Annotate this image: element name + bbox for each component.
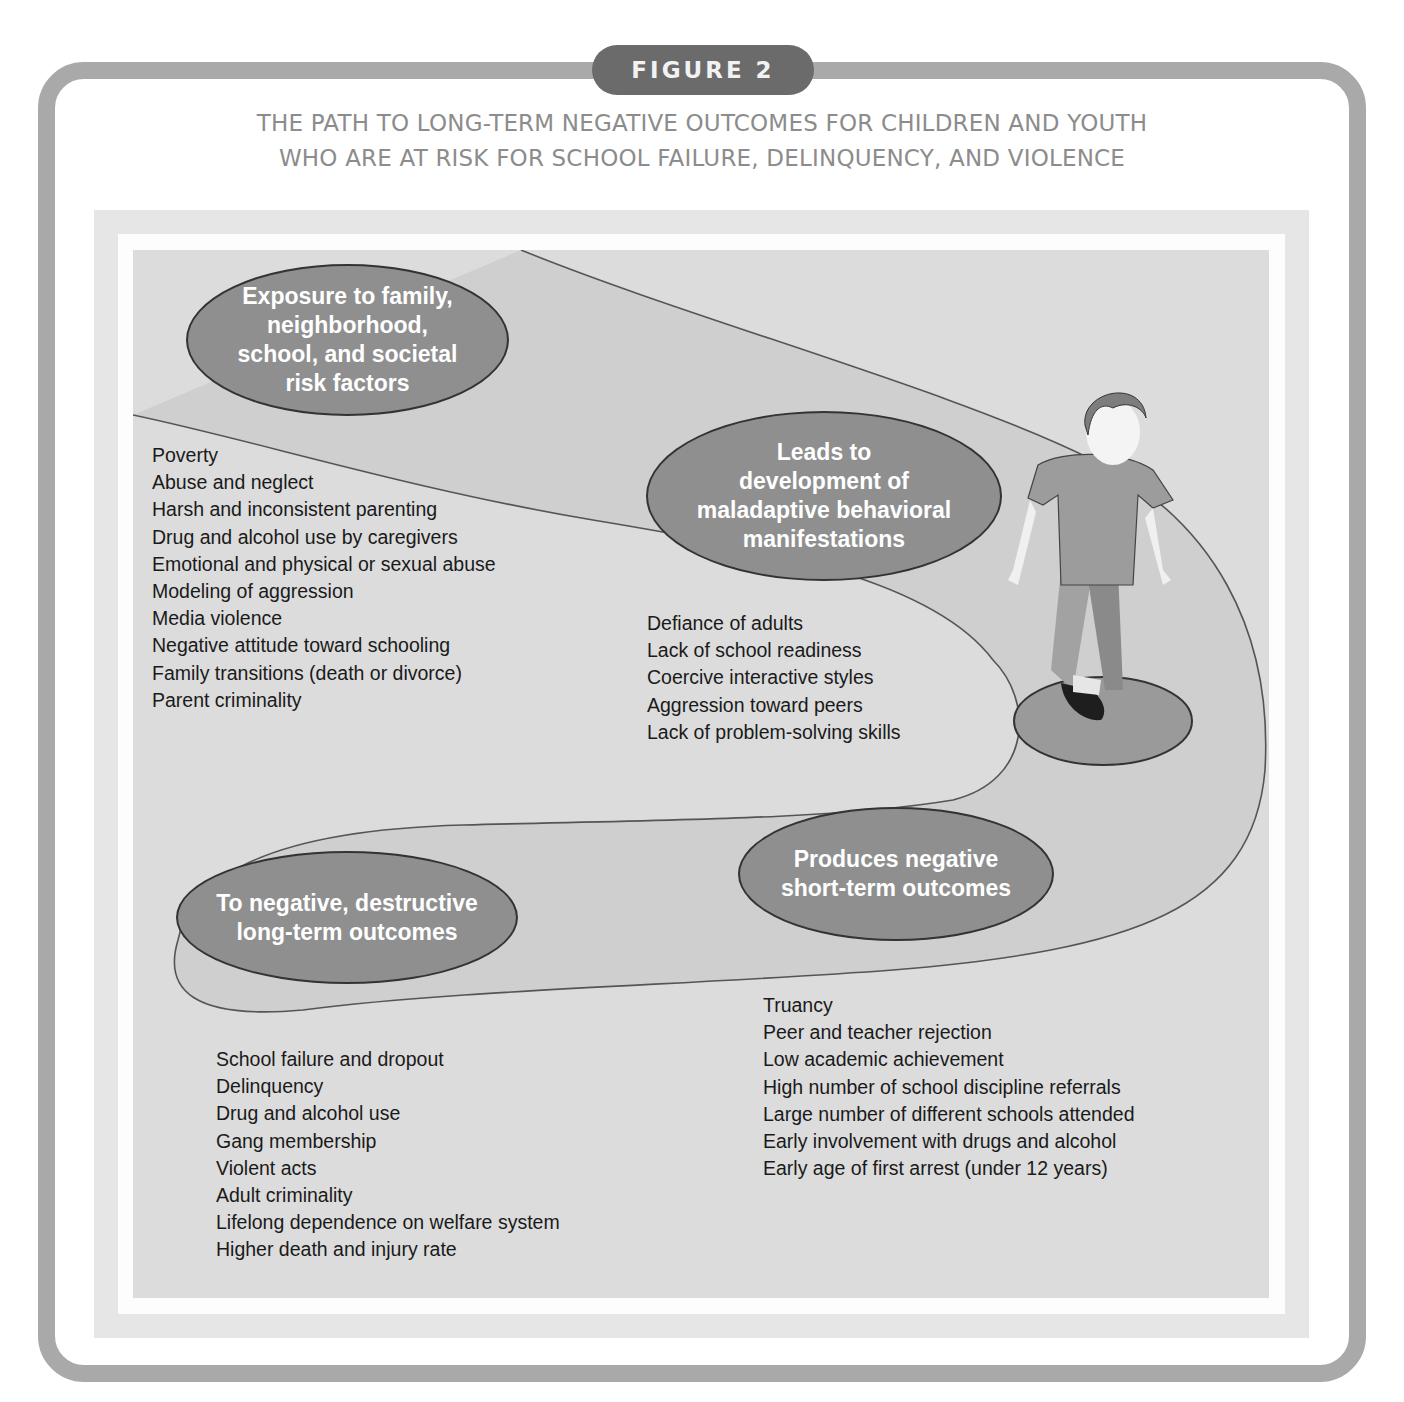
list-item: Harsh and inconsistent parenting xyxy=(152,496,496,523)
list-item: Peer and teacher rejection xyxy=(763,1019,1134,1046)
list-item: Modeling of aggression xyxy=(152,578,496,605)
list-item: Aggression toward peers xyxy=(647,692,901,719)
list-item: Adult criminality xyxy=(216,1182,560,1209)
stepping-stone-icon xyxy=(1014,677,1192,765)
list-item: Negative attitude toward schooling xyxy=(152,632,496,659)
list-item: Higher death and injury rate xyxy=(216,1236,560,1263)
list-item: Media violence xyxy=(152,605,496,632)
short-term-outcomes-list: Truancy Peer and teacher rejection Low a… xyxy=(763,992,1134,1182)
list-item: Abuse and neglect xyxy=(152,469,496,496)
stage-oval-risk-factors: Exposure to family, neighborhood, school… xyxy=(186,264,509,416)
list-item: Family transitions (death or divorce) xyxy=(152,660,496,687)
list-item: Parent criminality xyxy=(152,687,496,714)
list-item: Large number of different schools attend… xyxy=(763,1101,1134,1128)
list-item: School failure and dropout xyxy=(216,1046,560,1073)
list-item: Truancy xyxy=(763,992,1134,1019)
list-item: Lack of school readiness xyxy=(647,637,901,664)
figure-badge: FIGURE 2 xyxy=(592,45,814,95)
list-item: Coercive interactive styles xyxy=(647,664,901,691)
list-item: Drug and alcohol use by caregivers xyxy=(152,524,496,551)
stage-oval-long-term-outcomes: To negative, destructive long-term outco… xyxy=(176,851,518,984)
list-item: Gang membership xyxy=(216,1128,560,1155)
list-item: Delinquency xyxy=(216,1073,560,1100)
maladaptive-behaviors-list: Defiance of adults Lack of school readin… xyxy=(647,610,901,746)
list-item: Early age of first arrest (under 12 year… xyxy=(763,1155,1134,1182)
long-term-outcomes-list: School failure and dropout Delinquency D… xyxy=(216,1046,560,1264)
figure-title-line-1: THE PATH TO LONG-TERM NEGATIVE OUTCOMES … xyxy=(0,110,1404,136)
risk-factors-list: Poverty Abuse and neglect Harsh and inco… xyxy=(152,442,496,714)
list-item: Poverty xyxy=(152,442,496,469)
list-item: Low academic achievement xyxy=(763,1046,1134,1073)
list-item: Defiance of adults xyxy=(647,610,901,637)
list-item: Lack of problem-solving skills xyxy=(647,719,901,746)
list-item: High number of school discipline referra… xyxy=(763,1074,1134,1101)
list-item: Drug and alcohol use xyxy=(216,1100,560,1127)
stage-oval-maladaptive-behaviors: Leads to development of maladaptive beha… xyxy=(646,411,1002,581)
path-diagram: Exposure to family, neighborhood, school… xyxy=(133,250,1269,1298)
list-item: Early involvement with drugs and alcohol xyxy=(763,1128,1134,1155)
list-item: Emotional and physical or sexual abuse xyxy=(152,551,496,578)
figure-title-line-2: WHO ARE AT RISK FOR SCHOOL FAILURE, DELI… xyxy=(0,145,1404,171)
list-item: Violent acts xyxy=(216,1155,560,1182)
list-item: Lifelong dependence on welfare system xyxy=(216,1209,560,1236)
stage-oval-short-term-outcomes: Produces negative short-term outcomes xyxy=(738,807,1054,941)
